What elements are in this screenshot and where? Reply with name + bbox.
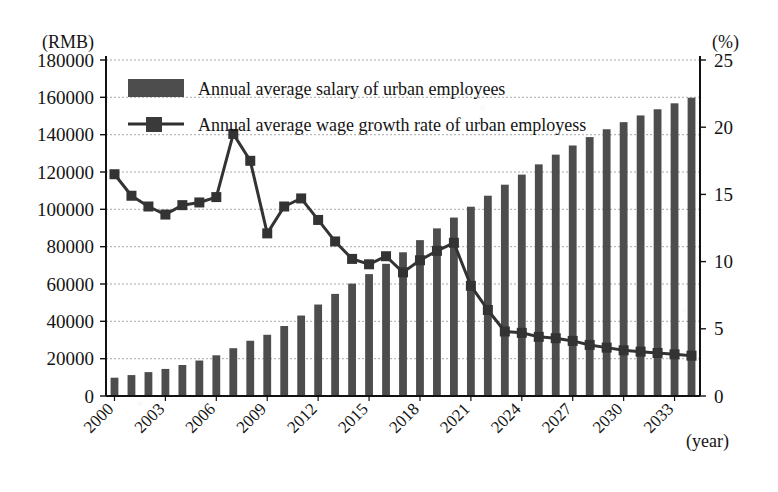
line-marker-2001	[126, 191, 136, 201]
x-tick-2030: 2030	[589, 399, 626, 436]
line-marker-2005	[194, 197, 204, 207]
chart-legend: Annual average salary of urban employees…	[128, 79, 586, 135]
line-marker-2016	[381, 251, 391, 261]
bar-2002	[145, 372, 153, 396]
line-marker-2022	[483, 305, 493, 315]
line-marker-2031	[636, 347, 646, 357]
bar-2026	[552, 155, 560, 396]
left-tick-60000: 60000	[47, 274, 95, 295]
bar-2007	[229, 348, 237, 396]
legend-line-marker	[146, 117, 162, 132]
line-marker-2009	[262, 228, 272, 238]
x-tick-2027: 2027	[538, 399, 576, 437]
line-marker-2029	[602, 343, 612, 353]
left-tick-180000: 180000	[37, 50, 94, 71]
x-tick-2006: 2006	[182, 399, 219, 436]
bar-2003	[162, 369, 170, 396]
line-marker-2018	[415, 255, 425, 265]
line-marker-2020	[449, 238, 459, 248]
bar-2024	[518, 175, 526, 396]
legend-label-salary: Annual average salary of urban employees	[198, 79, 505, 99]
bar-2014	[348, 284, 356, 396]
left-tick-40000: 40000	[47, 311, 95, 332]
x-tick-2012: 2012	[283, 399, 320, 436]
x-tick-2018: 2018	[385, 399, 422, 436]
left-tick-160000: 160000	[37, 87, 94, 108]
bar-2006	[212, 355, 220, 396]
bar-2027	[569, 145, 577, 396]
x-tick-2015: 2015	[334, 399, 371, 436]
dual-axis-bar-line-chart: (RMB) (%) (year) 02000040000600008000010…	[0, 0, 778, 492]
left-axis-tick-labels: 0200004000060000800001000001200001400001…	[37, 50, 106, 407]
x-axis-tick-labels: 2000200320062009201220152018202120242027…	[80, 396, 678, 437]
line-marker-2006	[211, 192, 221, 202]
line-marker-2021	[466, 281, 476, 291]
line-marker-2027	[568, 336, 578, 346]
line-marker-2030	[619, 345, 629, 355]
x-axis-unit-label: (year)	[686, 431, 729, 452]
line-marker-2034	[687, 351, 697, 361]
legend-bar-swatch	[128, 79, 184, 97]
right-tick-0: 0	[714, 386, 724, 407]
bar-2021	[467, 207, 475, 396]
line-marker-2033	[670, 349, 680, 359]
chart-container: (RMB) (%) (year) 02000040000600008000010…	[0, 0, 778, 492]
left-tick-80000: 80000	[47, 236, 95, 257]
right-axis-tick-labels: 0510152025	[700, 50, 733, 407]
line-marker-2023	[500, 326, 510, 336]
line-marker-2002	[143, 202, 153, 212]
right-tick-5: 5	[714, 318, 724, 339]
bar-2023	[501, 185, 509, 396]
bar-2028	[586, 137, 594, 396]
line-marker-2017	[398, 267, 408, 277]
right-tick-20: 20	[714, 117, 733, 138]
line-marker-2026	[551, 333, 561, 343]
x-tick-2009: 2009	[233, 399, 270, 436]
bar-2010	[280, 326, 288, 396]
bar-2000	[111, 378, 119, 396]
line-marker-2013	[330, 236, 340, 246]
line-marker-2015	[364, 259, 374, 269]
line-marker-2032	[653, 348, 663, 358]
line-marker-2012	[313, 215, 323, 225]
bar-2029	[603, 129, 611, 396]
left-tick-100000: 100000	[37, 199, 94, 220]
bar-2009	[263, 335, 271, 396]
right-tick-15: 15	[714, 184, 733, 205]
legend-label-growth: Annual average wage growth rate of urban…	[198, 115, 586, 135]
bar-2022	[484, 196, 492, 396]
bar-2012	[314, 305, 322, 396]
right-tick-25: 25	[714, 50, 733, 71]
line-marker-2019	[432, 246, 442, 256]
bar-2001	[128, 375, 136, 396]
line-marker-2024	[517, 328, 527, 338]
bar-2004	[178, 365, 186, 396]
left-tick-120000: 120000	[37, 162, 94, 183]
bar-2008	[246, 341, 254, 396]
line-marker-2003	[160, 210, 170, 220]
line-marker-2025	[534, 332, 544, 342]
line-marker-2010	[279, 202, 289, 212]
left-tick-20000: 20000	[47, 348, 95, 369]
bar-2005	[195, 361, 203, 396]
bar-2016	[382, 264, 390, 396]
left-tick-140000: 140000	[37, 124, 94, 145]
bar-2011	[297, 316, 305, 396]
line-marker-2011	[296, 193, 306, 203]
right-tick-10: 10	[714, 251, 733, 272]
bar-2025	[535, 164, 543, 396]
x-tick-2003: 2003	[131, 399, 168, 436]
left-tick-0: 0	[85, 386, 95, 407]
line-marker-2004	[177, 200, 187, 210]
line-marker-2028	[585, 340, 595, 350]
bar-2013	[331, 294, 339, 396]
x-tick-2021: 2021	[436, 399, 473, 436]
line-marker-2000	[109, 169, 119, 179]
line-marker-2014	[347, 254, 357, 264]
line-marker-2008	[245, 156, 255, 166]
x-tick-2024: 2024	[487, 399, 525, 437]
bar-2015	[365, 274, 373, 396]
x-tick-2033: 2033	[640, 399, 677, 436]
